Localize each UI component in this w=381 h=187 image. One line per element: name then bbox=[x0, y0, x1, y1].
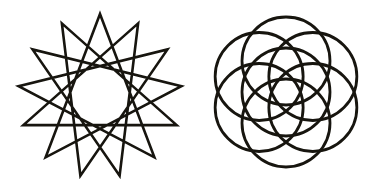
star-polygon-svg bbox=[0, 0, 190, 187]
seed-of-life-circles bbox=[215, 17, 357, 167]
seed-of-life-figure bbox=[190, 0, 381, 187]
seed-of-life-svg bbox=[190, 0, 381, 187]
image-canvas bbox=[0, 0, 381, 187]
star-polygon-figure bbox=[0, 0, 190, 187]
star-polygon-path bbox=[19, 14, 182, 176]
